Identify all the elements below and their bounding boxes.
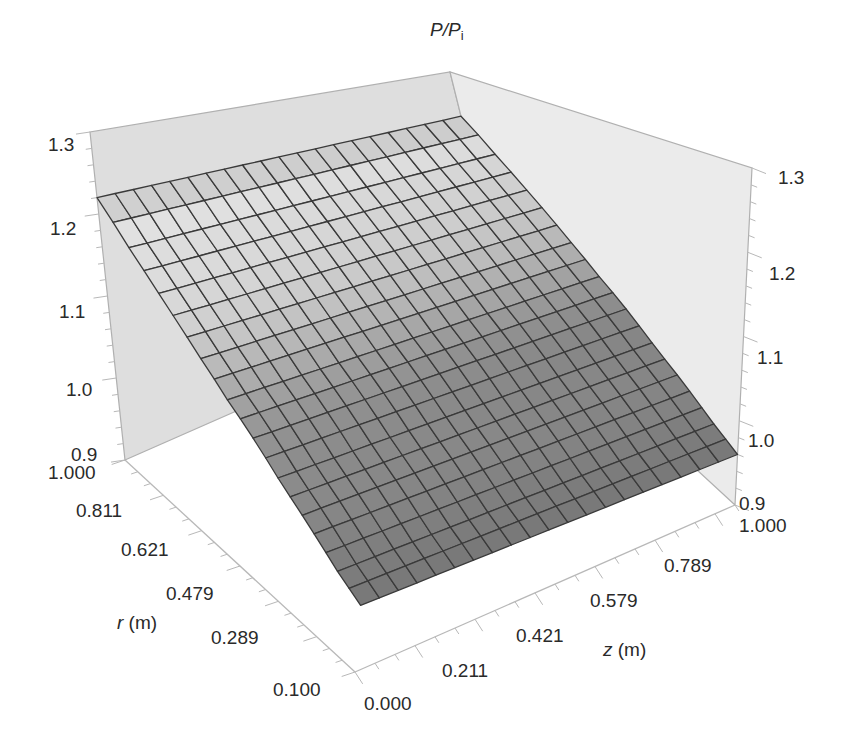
left-vertical-tick (102, 378, 116, 380)
right-vertical-tick (737, 471, 743, 473)
r-axis-tick (131, 472, 138, 474)
zaxis-title: P/Pi (430, 20, 464, 39)
right-ztick-2: 1.2 (769, 264, 795, 283)
r-tick-0479: 0.479 (166, 584, 214, 603)
r-axis-tick (297, 625, 304, 627)
right-vertical-tick (739, 421, 753, 427)
z-tick-0789: 0.789 (664, 556, 712, 575)
z-axis-tick (395, 654, 399, 660)
right-vertical-tick (738, 454, 744, 456)
right-vertical-tick (751, 185, 757, 187)
z-axis-tick (355, 672, 363, 684)
r-axis-tick (188, 531, 201, 535)
left-vertical-tick (117, 444, 123, 445)
right-vertical-tick (750, 202, 756, 204)
right-vertical-tick (747, 269, 753, 271)
left-ztick-2: 1.2 (50, 219, 76, 238)
left-ztick-1: 1.3 (48, 135, 74, 154)
right-vertical-tick (740, 404, 746, 406)
right-vertical-tick (738, 438, 744, 440)
left-vertical-tick (89, 181, 95, 182)
z-axis-tick (455, 628, 459, 634)
right-vertical-tick (744, 320, 750, 322)
r-tick-0100: 0.100 (273, 680, 321, 699)
left-vertical-tick (103, 312, 109, 313)
right-vertical-tick (741, 387, 747, 389)
z-tick-0211: 0.211 (442, 661, 488, 680)
z-tick-0000: 0.000 (364, 694, 412, 713)
right-vertical-tick (745, 303, 751, 305)
right-vertical-tick (746, 286, 752, 288)
r-axis-tick (284, 613, 291, 615)
r-axis-tick (246, 578, 253, 580)
right-vertical-tick (736, 488, 742, 490)
r-axis-tick (265, 601, 278, 605)
left-vertical-tick (116, 427, 122, 428)
z-axis-tick (475, 619, 483, 631)
left-vertical-tick (85, 214, 99, 216)
z-axis-tick (535, 593, 543, 605)
r-axis-tick (227, 566, 240, 570)
z-axis-tick (555, 584, 559, 590)
left-vertical-tick (109, 362, 115, 363)
left-vertical-tick (96, 247, 102, 248)
raxis-title-unit: (m) (123, 612, 157, 633)
left-vertical-tick (88, 165, 94, 166)
z-axis-tick (435, 637, 439, 643)
r-axis-tick (303, 637, 316, 641)
z-axis-tick (415, 646, 423, 658)
z-axis-tick (715, 514, 723, 526)
z-axis-tick (695, 523, 699, 529)
r-axis-tick (150, 495, 163, 499)
left-vertical-tick (86, 148, 92, 149)
left-vertical-tick (98, 263, 104, 264)
left-vertical-tick (100, 280, 106, 281)
r-axis-tick (259, 590, 266, 592)
z-axis-tick (595, 567, 603, 579)
r-axis-tick (169, 507, 176, 509)
z-axis-tick (675, 531, 679, 537)
zaxis-horizontal-title-var: z (603, 639, 613, 660)
left-vertical-tick (95, 230, 101, 231)
z-axis-tick (375, 663, 379, 669)
left-ztick-4: 1.0 (66, 380, 92, 399)
zaxis-horizontal-title: z (m) (603, 640, 646, 659)
right-ztick-5: 0.9 (739, 494, 765, 513)
right-vertical-tick (742, 370, 748, 372)
left-ztick-3: 1.1 (59, 302, 85, 321)
right-ztick-3: 1.1 (757, 348, 783, 367)
r-tick-0811: 0.811 (76, 501, 122, 520)
r-axis-tick (323, 648, 330, 650)
r-axis-tick (221, 554, 228, 556)
z-axis-tick (575, 575, 579, 581)
r-axis-tick (336, 660, 343, 662)
r-tick-1000: 1.000 (48, 463, 96, 482)
r-axis-tick (144, 484, 151, 486)
r-tick-0289: 0.289 (211, 628, 259, 647)
left-vertical-tick (112, 394, 118, 395)
raxis-title: r (m) (117, 613, 157, 632)
left-vertical-tick (91, 198, 97, 199)
z-tick-1000: 1.000 (739, 516, 787, 535)
r-axis-tick (208, 542, 215, 544)
right-vertical-tick (749, 235, 755, 237)
z-axis-tick (615, 558, 619, 564)
right-vertical-tick (744, 337, 758, 343)
r-tick-0621: 0.621 (121, 540, 169, 559)
right-vertical-tick (752, 168, 766, 174)
z-tick-0579: 0.579 (590, 591, 638, 610)
zaxis-title-sub: i (461, 28, 464, 43)
left-vertical-tick (76, 132, 90, 134)
z-axis-tick (635, 549, 639, 555)
zaxis-title-main: P/P (430, 19, 461, 40)
left-vertical-tick (114, 411, 120, 412)
r-axis-tick (182, 519, 189, 521)
z-axis-tick (655, 540, 663, 552)
left-vertical-tick (105, 329, 111, 330)
right-ztick-1: 1.3 (778, 168, 804, 187)
zaxis-horizontal-title-unit: (m) (613, 639, 647, 660)
right-vertical-tick (743, 353, 749, 355)
z-axis-tick (495, 610, 499, 616)
left-vertical-tick (107, 345, 113, 346)
left-vertical-tick (94, 296, 108, 298)
